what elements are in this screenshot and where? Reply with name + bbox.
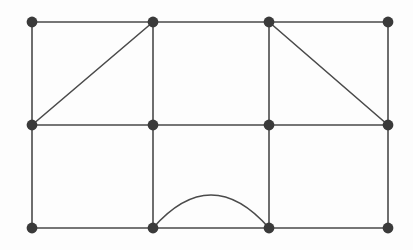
graph-vertex-r1c2 xyxy=(148,17,159,28)
graph-vertex-r2c4 xyxy=(383,120,394,131)
graph-vertex-r1c4 xyxy=(383,17,394,28)
graph-vertex-r1c1 xyxy=(27,17,38,28)
graph-vertex-r3c3 xyxy=(264,223,275,234)
graph-vertex-r3c1 xyxy=(27,223,38,234)
graph-vertex-r2c3 xyxy=(264,120,275,131)
graph-vertex-r2c1 xyxy=(27,120,38,131)
graph-vertex-r1c3 xyxy=(264,17,275,28)
graph-vertex-r3c4 xyxy=(383,223,394,234)
graph-vertex-r2c2 xyxy=(148,120,159,131)
graph-vertex-r3c2 xyxy=(148,223,159,234)
graph-canvas xyxy=(0,0,413,250)
graph-figure xyxy=(0,0,413,250)
